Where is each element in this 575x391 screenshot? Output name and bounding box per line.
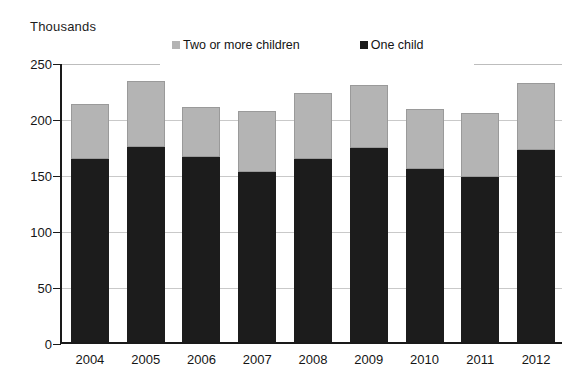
bar-segment-two-or-more-children-2009[interactable] bbox=[350, 85, 388, 148]
x-tick-label-2007: 2007 bbox=[227, 352, 287, 367]
y-tick-label-100: 100 bbox=[30, 225, 52, 240]
bar-group-2012[interactable] bbox=[517, 83, 555, 344]
x-tick-label-2010: 2010 bbox=[395, 352, 455, 367]
bar-group-2011[interactable] bbox=[461, 113, 499, 344]
bar-group-2010[interactable] bbox=[406, 109, 444, 344]
bar-group-2005[interactable] bbox=[127, 81, 165, 344]
chart-legend: Two or more children One child bbox=[172, 39, 424, 52]
bar-segment-two-or-more-children-2008[interactable] bbox=[294, 93, 332, 159]
bar-segment-one-child-2005[interactable] bbox=[127, 147, 165, 344]
bar-segment-two-or-more-children-2005[interactable] bbox=[127, 81, 165, 147]
bar-segment-two-or-more-children-2007[interactable] bbox=[238, 111, 276, 171]
stacked-bar-chart: Thousands Two or more children One child… bbox=[0, 0, 575, 391]
y-tick-label-150: 150 bbox=[30, 169, 52, 184]
bar-segment-one-child-2004[interactable] bbox=[71, 159, 109, 344]
legend-item-one-child[interactable]: One child bbox=[360, 39, 424, 52]
legend-swatch-black-icon bbox=[360, 41, 368, 49]
x-axis-labels: 200420052006200720082009201020112012 bbox=[60, 352, 562, 374]
bar-segment-one-child-2010[interactable] bbox=[406, 169, 444, 344]
y-tick-label-250: 250 bbox=[30, 57, 52, 72]
bar-group-2007[interactable] bbox=[238, 111, 276, 344]
bar-group-2009[interactable] bbox=[350, 85, 388, 344]
x-tick-label-2012: 2012 bbox=[506, 352, 566, 367]
y-tick-label-50: 50 bbox=[38, 281, 52, 296]
bar-segment-two-or-more-children-2012[interactable] bbox=[517, 83, 555, 150]
x-tick-label-2005: 2005 bbox=[116, 352, 176, 367]
bar-segment-one-child-2008[interactable] bbox=[294, 159, 332, 344]
bar-segment-one-child-2007[interactable] bbox=[238, 172, 276, 344]
x-axis-line bbox=[60, 342, 562, 344]
x-tick-label-2009: 2009 bbox=[339, 352, 399, 367]
y-tick-0 bbox=[53, 344, 61, 345]
x-tick-label-2006: 2006 bbox=[171, 352, 231, 367]
bar-group-2004[interactable] bbox=[71, 104, 109, 344]
bar-segment-two-or-more-children-2011[interactable] bbox=[461, 113, 499, 177]
x-tick-label-2008: 2008 bbox=[283, 352, 343, 367]
x-tick-label-2004: 2004 bbox=[60, 352, 120, 367]
bar-segment-one-child-2006[interactable] bbox=[182, 157, 220, 344]
y-tick-label-200: 200 bbox=[30, 113, 52, 128]
y-tick-label-0: 0 bbox=[45, 337, 52, 352]
legend-label-two-or-more-children: Two or more children bbox=[183, 39, 300, 52]
bar-segment-one-child-2011[interactable] bbox=[461, 177, 499, 344]
y-axis-labels: 050100150200250 bbox=[0, 64, 52, 344]
bar-segment-two-or-more-children-2010[interactable] bbox=[406, 109, 444, 169]
bar-group-2008[interactable] bbox=[294, 93, 332, 344]
plot-area bbox=[60, 64, 562, 344]
legend-swatch-gray-icon bbox=[172, 41, 180, 49]
legend-item-two-or-more-children[interactable]: Two or more children bbox=[172, 39, 300, 52]
x-tick-label-2011: 2011 bbox=[450, 352, 510, 367]
bar-segment-two-or-more-children-2006[interactable] bbox=[182, 107, 220, 157]
bar-series-layer bbox=[60, 64, 562, 344]
legend-label-one-child: One child bbox=[371, 39, 424, 52]
bar-segment-two-or-more-children-2004[interactable] bbox=[71, 104, 109, 159]
y-axis-title: Thousands bbox=[30, 19, 96, 34]
bar-segment-one-child-2009[interactable] bbox=[350, 148, 388, 344]
bar-segment-one-child-2012[interactable] bbox=[517, 150, 555, 344]
bar-group-2006[interactable] bbox=[182, 107, 220, 344]
